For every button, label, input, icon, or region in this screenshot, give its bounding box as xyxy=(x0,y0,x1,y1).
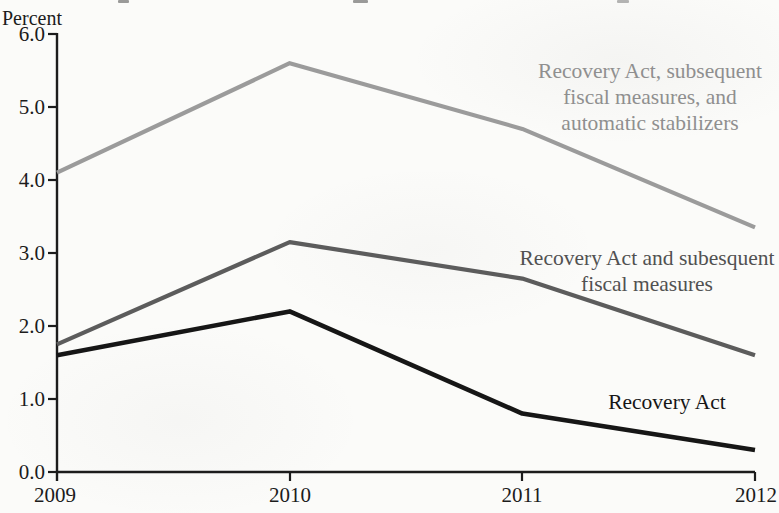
x-tick-label: 2012 xyxy=(735,483,777,507)
series-label-line: Recovery Act, subsequent xyxy=(538,58,762,84)
y-axis-ticks xyxy=(48,34,57,472)
x-tick-label: 2011 xyxy=(501,483,542,507)
y-tick-label: 5.0 xyxy=(19,95,45,119)
x-tick-label: 2009 xyxy=(34,483,76,507)
y-tick-label: 2.0 xyxy=(19,314,45,338)
series-label-line: Recovery Act and subesquent xyxy=(520,245,775,271)
series-label-line: fiscal measures, and xyxy=(538,84,762,110)
y-tick-label: 0.0 xyxy=(19,460,45,484)
x-axis-ticks xyxy=(290,472,755,481)
series-label-recovery-act-fiscal-and-stabilizers: Recovery Act, subsequent fiscal measures… xyxy=(538,58,762,136)
y-axis-unit-label: Percent xyxy=(2,7,62,29)
series-label-recovery-act-and-fiscal-measures: Recovery Act and subesquent fiscal measu… xyxy=(520,245,775,297)
series-label-recovery-act: Recovery Act xyxy=(608,389,726,415)
y-tick-label: 4.0 xyxy=(19,168,45,192)
series-label-line: automatic stabilizers xyxy=(538,110,762,136)
series-line-recovery-act xyxy=(57,311,755,450)
y-tick-label: 3.0 xyxy=(19,241,45,265)
series-label-line: Recovery Act xyxy=(608,389,726,415)
x-tick-label: 2010 xyxy=(269,483,311,507)
series-label-line: fiscal measures xyxy=(520,271,775,297)
y-tick-label: 1.0 xyxy=(19,387,45,411)
